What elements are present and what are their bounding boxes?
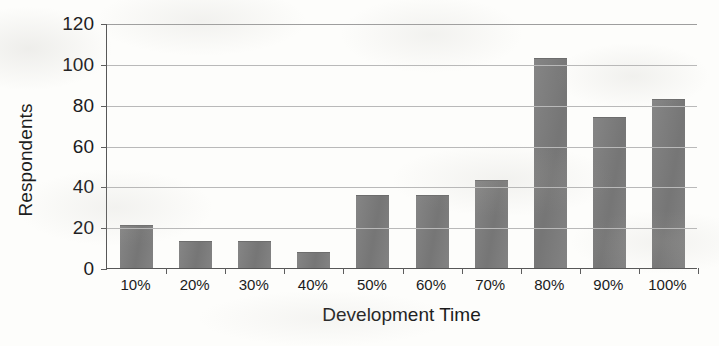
y-tick-label: 120 <box>62 13 94 35</box>
bar <box>475 180 508 268</box>
bar <box>238 241 271 268</box>
x-tick-label: 50% <box>357 276 387 293</box>
y-tick-mark-80 <box>101 106 107 107</box>
y-axis-title-label: Respondents <box>15 103 37 216</box>
x-tick-mark <box>580 268 581 274</box>
y-tick-label: 80 <box>73 95 94 117</box>
y-tick-mark-60 <box>101 147 107 148</box>
x-tick-label: 10% <box>121 276 151 293</box>
bar <box>652 99 685 268</box>
gridline-100 <box>107 65 697 66</box>
bar <box>534 58 567 268</box>
bar <box>120 225 153 268</box>
bar <box>356 195 389 269</box>
bar <box>179 241 212 268</box>
x-tick-mark <box>698 268 699 274</box>
x-axis-tick-labels: 10%20%30%40%50%60%70%80%90%100% <box>106 276 697 302</box>
gridline-120 <box>107 24 697 25</box>
gridline-40 <box>107 187 697 188</box>
y-tick-mark-100 <box>101 65 107 66</box>
x-tick-label: 20% <box>180 276 210 293</box>
y-tick-mark-20 <box>101 228 107 229</box>
x-tick-label: 40% <box>298 276 328 293</box>
y-tick-mark-40 <box>101 187 107 188</box>
x-tick-mark <box>284 268 285 274</box>
gridline-80 <box>107 106 697 107</box>
x-tick-label: 90% <box>593 276 623 293</box>
x-tick-mark <box>225 268 226 274</box>
x-tick-label: 30% <box>239 276 269 293</box>
bar <box>297 252 330 268</box>
bar-chart-figure: Respondents 020406080100120 10%20%30%40%… <box>0 0 719 346</box>
gridline-60 <box>107 147 697 148</box>
y-axis-tick-labels: 020406080100120 <box>46 0 102 346</box>
plot-area <box>106 24 697 269</box>
x-tick-label: 60% <box>416 276 446 293</box>
y-tick-label: 40 <box>73 176 94 198</box>
x-tick-mark <box>521 268 522 274</box>
bar <box>593 117 626 268</box>
y-tick-label: 0 <box>83 258 94 280</box>
gridline-20 <box>107 228 697 229</box>
x-tick-mark <box>639 268 640 274</box>
x-tick-label: 70% <box>475 276 505 293</box>
x-tick-mark <box>166 268 167 274</box>
y-axis-title: Respondents <box>14 80 38 240</box>
y-tick-mark-120 <box>101 24 107 25</box>
x-tick-mark <box>403 268 404 274</box>
bar <box>416 195 449 269</box>
y-tick-label: 100 <box>62 54 94 76</box>
y-tick-mark-0 <box>101 269 107 270</box>
x-tick-mark <box>462 268 463 274</box>
x-tick-label: 80% <box>534 276 564 293</box>
y-tick-label: 60 <box>73 136 94 158</box>
y-tick-label: 20 <box>73 217 94 239</box>
x-tick-mark <box>343 268 344 274</box>
x-tick-label: 100% <box>648 276 686 293</box>
x-axis-title: Development Time <box>106 304 697 326</box>
